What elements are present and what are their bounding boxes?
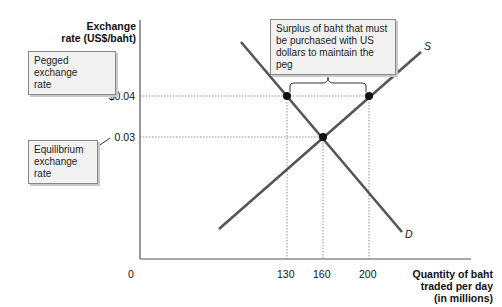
pegged-callout-line2: rate <box>34 79 110 91</box>
point-demand-at-peg <box>283 92 291 100</box>
x-axis-title-line1: Quantity of baht <box>380 268 493 280</box>
pegged-callout-line1: Pegged exchange <box>34 55 110 79</box>
pegged-rate-callout: Pegged exchange rate <box>28 51 116 95</box>
supply-curve <box>219 52 421 229</box>
x-axis-title-line2: traded per day <box>380 280 493 292</box>
demand-label: D <box>405 228 413 240</box>
guide-lines <box>140 96 369 259</box>
equilibrium-callout-line2: exchange rate <box>34 156 92 180</box>
x-axis-title: Quantity of baht traded per day (in mill… <box>380 268 493 304</box>
point-equilibrium <box>319 133 327 141</box>
x-tick-130: 130 <box>277 268 295 280</box>
y-axis-title: Exchange rate (US$/baht) <box>40 20 136 44</box>
x-tick-origin: 0 <box>128 268 134 280</box>
x-tick-200: 200 <box>359 268 377 280</box>
equilibrium-rate-callout: Equilibrium exchange rate <box>28 140 98 184</box>
x-axis-title-line3: (in millions) <box>380 292 493 304</box>
surplus-callout-line2: be purchased with US <box>276 35 390 47</box>
x-tick-160: 160 <box>313 268 331 280</box>
equilibrium-callout-line1: Equilibrium <box>34 144 92 156</box>
point-supply-at-peg <box>365 92 373 100</box>
y-axis-title-line1: Exchange <box>40 20 136 32</box>
surplus-callout-line1: Surplus of baht that must <box>276 23 390 35</box>
surplus-callout: Surplus of baht that must be purchased w… <box>270 19 396 75</box>
supply-label: S <box>424 40 431 52</box>
surplus-brace <box>290 78 366 92</box>
y-axis-title-line2: rate (US$/baht) <box>40 32 136 44</box>
surplus-callout-line3: dollars to maintain the peg <box>276 47 390 71</box>
